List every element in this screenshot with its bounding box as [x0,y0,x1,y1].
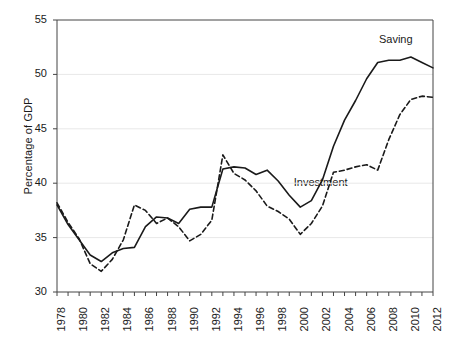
chart-container: Percentage of GDP 303540455055 197819801… [0,0,449,346]
data-series [57,57,433,271]
series-line-saving [57,57,433,262]
axis-lines [57,20,433,292]
plot-area [0,0,449,346]
series-line-investment [57,96,433,271]
gridlines [57,74,433,237]
